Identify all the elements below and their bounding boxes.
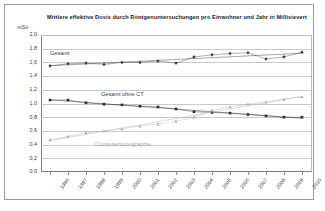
data-point-marker [121, 104, 124, 107]
data-point-marker [85, 102, 88, 105]
data-point-marker [48, 64, 51, 68]
data-point-marker [282, 55, 285, 59]
data-point-marker [301, 116, 304, 119]
data-point-marker [103, 103, 106, 106]
series-layer [5, 5, 325, 211]
data-point-marker [120, 61, 123, 65]
data-point-marker [247, 113, 250, 116]
data-point-marker [49, 99, 52, 102]
data-point-marker [264, 57, 267, 61]
data-point-marker [265, 115, 268, 118]
data-point-marker [84, 61, 87, 65]
series-gesamt-ohne-ct [49, 99, 304, 119]
series-gesamt [48, 50, 303, 67]
data-point-marker [174, 61, 177, 65]
data-point-marker [157, 106, 160, 109]
data-point-marker [175, 108, 178, 111]
data-point-marker [192, 55, 195, 59]
data-point-marker [283, 116, 286, 119]
series-label-gesamt: Gesamt [50, 50, 70, 56]
data-point-marker [228, 52, 231, 56]
series-label-gesamt-ohne-ct: Gesamt ohne CT [101, 91, 144, 97]
chart-frame: Mittlere effektive Dosis durch Röntgenun… [4, 4, 314, 200]
data-point-marker [246, 51, 249, 55]
data-point-marker [229, 112, 232, 115]
data-point-marker [67, 99, 70, 102]
data-point-marker [210, 53, 213, 57]
data-point-marker [156, 59, 159, 63]
data-point-marker [139, 105, 142, 108]
data-point-marker [193, 110, 196, 113]
series-label-computertomographie: Computertomographie [95, 141, 151, 147]
